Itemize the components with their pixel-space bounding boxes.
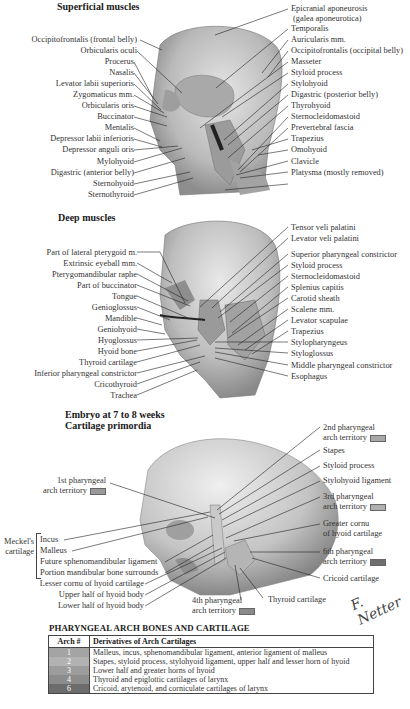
label-splenius-capitis: Splenius capitis [291, 283, 344, 293]
deep-muscles-title: Deep muscles [58, 212, 116, 223]
label-extrinsic-eyeball: Extrinsic eyeball mm. [63, 259, 137, 269]
label-stapes: Stapes [323, 446, 345, 456]
label-genioglossus: Genioglossus [92, 303, 137, 313]
label-stylohyoid: Stylohyoid [291, 79, 328, 89]
pharyngeal-arch-table: Arch # Derivatives of Arch Cartilages 1 … [48, 635, 374, 694]
label-malleus: Malleus [40, 546, 67, 556]
label-levator-veli-palatini: Levator veli palatini [291, 234, 359, 244]
label-thyrohyoid: Thyrohyoid [291, 101, 331, 111]
label-second-arch: 2nd pharyngeal arch territory [323, 423, 386, 443]
label-tongue: Tongue [112, 292, 137, 302]
label-trachea: Trachea [110, 391, 137, 401]
label-fourth-arch: 4th pharyngeal arch territory [192, 596, 255, 616]
label-occipitofrontalis-frontal: Occipitofrontalis (frontal belly) [31, 35, 137, 45]
table-row: 2 Stapes, styloid process, stylohyoid li… [49, 657, 374, 666]
embryo-illustration [140, 439, 338, 595]
label-depressor-anguli-oris: Depressor anguli oris [62, 145, 134, 155]
label-trapezius: Trapezius [291, 134, 324, 144]
label-styloid-process: Styloid process [291, 68, 342, 78]
header-arch-number: Arch # [49, 636, 90, 648]
sixth-arch-line1: 6th pharyngeal [323, 547, 386, 557]
fourth-arch-line1: 4th pharyngeal [192, 596, 255, 606]
label-digastric-posterior: Digastric (posterior belly) [291, 90, 378, 100]
label-zygomaticus: Zygomaticus mm. [73, 90, 134, 100]
label-levator-labii-superioris: Levator labii superioris [56, 79, 134, 89]
second-arch-line2: arch territory [323, 433, 386, 443]
label-lateral-pterygoid: Part of lateral pterygoid m. [47, 248, 137, 258]
meckel-line2: cartilage [4, 547, 34, 557]
label-cricoid-cartilage: Cricoid cartilage [323, 574, 379, 584]
label-platysma: Platysma (mostly removed) [291, 168, 384, 178]
label-levator-scapulae: Levator scapulae [291, 316, 348, 326]
label-epicranial-aponeurosis: Epicranial aponeurosis [291, 4, 368, 14]
label-tensor-veli-palatini: Tensor veli palatini [291, 223, 356, 233]
table-row: 1 Malleus, incus, sphenomandibular ligam… [49, 648, 374, 658]
label-stylohyoid-ligament: Stylohyoid ligament [323, 476, 391, 486]
derivatives-cell: Cricoid, arytenoid, and corniculate cart… [90, 684, 374, 694]
sixth-arch-line2: arch territory [323, 557, 386, 567]
greater-cornu-line1: Greater cornu [323, 519, 382, 529]
embryo-title-line1: Embryo at 7 to 8 weeks [65, 409, 165, 420]
label-first-arch: 1st pharyngeal arch territory [43, 476, 106, 496]
arch-number-cell: 6 [49, 684, 90, 694]
second-arch-line1: 2nd pharyngeal [323, 423, 386, 433]
label-future-sphenomandibular: Future sphenomandibular ligament [40, 557, 157, 567]
label-deep-sternocleidomastoid: Sternocleidomastoid [291, 272, 360, 282]
arch4-swatch [239, 608, 255, 615]
label-superior-pharyngeal-constrictor: Superior pharyngeal constrictor [291, 250, 397, 260]
table-header-row: Arch # Derivatives of Arch Cartilages [49, 636, 374, 648]
label-middle-pharyngeal-constrictor: Middle pharyngeal constrictor [291, 361, 392, 371]
arch3-swatch [370, 504, 386, 511]
label-sternocleidomastoid: Sternocleidomastoid [291, 112, 360, 122]
label-hyoglossus: Hyoglossus [98, 336, 137, 346]
label-digastric-anterior: Digastric (anterior belly) [51, 168, 134, 178]
first-arch-line1: 1st pharyngeal [43, 476, 106, 486]
arch2-swatch [370, 435, 386, 442]
label-deep-styloid-process: Styloid process [291, 261, 342, 271]
label-temporalis: Temporalis [291, 24, 329, 34]
deep-head-illustration [160, 221, 280, 398]
label-auricularis: Auricularis mm. [291, 35, 346, 45]
third-arch-line1: 3rd pharyngeal [323, 492, 386, 502]
label-inferior-pharyngeal-constrictor: Inferior pharyngeal constrictor [34, 369, 137, 379]
header-derivatives: Derivatives of Arch Cartilages [90, 636, 374, 648]
label-pterygomandibular-raphe: Pterygomandibular raphe [52, 270, 137, 280]
label-thyroid-cartilage: Thyroid cartilage [79, 358, 137, 368]
label-third-arch: 3rd pharyngeal arch territory [323, 492, 386, 512]
fourth-arch-line2: arch territory [192, 606, 255, 616]
meckel-line1: Meckel's [4, 537, 34, 547]
arch6-swatch [370, 559, 386, 566]
derivatives-cell: Malleus, incus, sphenomandibular ligamen… [90, 648, 374, 658]
label-embryo-thyroid-cartilage: Thyroid cartilage [268, 595, 326, 605]
label-prevertebral-fascia: Prevertebral fascia [291, 123, 354, 133]
label-orbicularis-oculi: Orbicularis oculi [80, 46, 137, 56]
label-lesser-cornu: Lesser cornu of hyoid cartilage [40, 579, 144, 589]
label-sternohyoid: Sternohyoid [93, 179, 134, 189]
label-buccinator: Buccinator [97, 112, 134, 122]
label-upper-half-hyoid: Upper half of hyoid body [59, 590, 144, 600]
label-nasalis: Nasalis [109, 68, 134, 78]
label-stylopharyngeus: Stylopharyngeus [291, 338, 347, 348]
label-styloglossus: Styloglossus [291, 349, 333, 359]
label-carotid-sheath: Carotid sheath [291, 294, 340, 304]
arch1-swatch [90, 488, 106, 495]
label-portion-mandibular: Portion mandibular bone surrounds [40, 568, 158, 578]
label-mylohyoid: Mylohyoid [97, 157, 134, 167]
first-arch-line2: arch territory [43, 486, 106, 496]
derivatives-cell: Thyroid and epiglottic cartilages of lar… [90, 675, 374, 684]
label-mentalis: Mentalis [105, 123, 134, 133]
arch-number-cell: 3 [49, 666, 90, 675]
label-esophagus: Esophagus [291, 372, 327, 382]
table-row: 4 Thyroid and epiglottic cartilages of l… [49, 675, 374, 684]
derivatives-cell: Stapes, styloid process, stylohyoid liga… [90, 657, 374, 666]
third-arch-line2: arch territory [323, 502, 386, 512]
label-cricothyroid: Cricothyroid [94, 380, 137, 390]
label-incus: Incus [40, 535, 58, 545]
arch-number-cell: 1 [49, 648, 90, 658]
embryo-title-line2: Cartilage primordia [65, 420, 165, 431]
label-orbicularis-oris: Orbicularis oris [82, 101, 134, 111]
table-row: 6 Cricoid, arytenoid, and corniculate ca… [49, 684, 374, 694]
label-meckels-cartilage: Meckel's cartilage [4, 537, 34, 557]
label-sixth-arch: 6th pharyngeal arch territory [323, 547, 386, 567]
label-sternothyroid: Sternothyroid [88, 190, 134, 200]
